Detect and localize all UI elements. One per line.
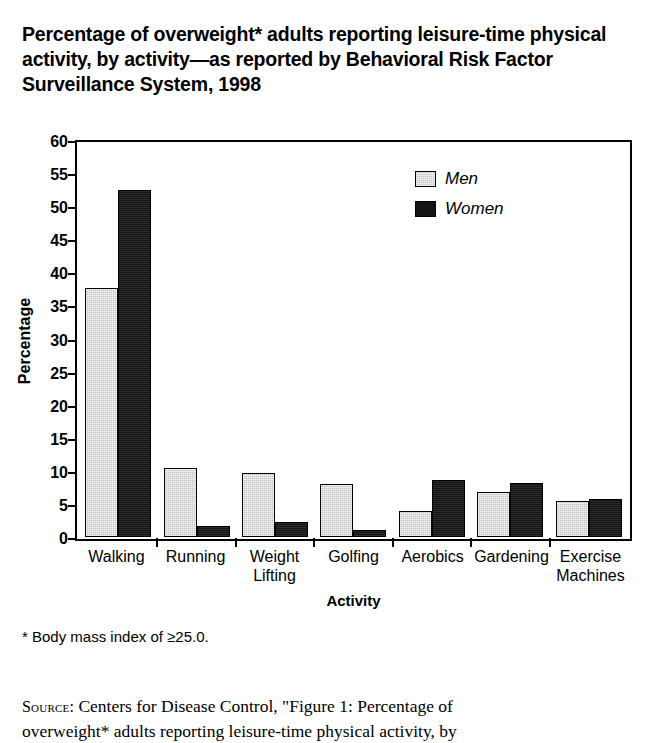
x-axis-label: Aerobics: [393, 547, 472, 585]
bar-men: [556, 501, 589, 537]
y-axis-title: Percentage: [16, 297, 34, 383]
legend-item: Men: [415, 164, 575, 194]
legend-swatch-men: [415, 171, 436, 187]
bar-men: [320, 484, 353, 537]
y-tick-label: 0: [59, 530, 68, 548]
y-tick-label: 50: [50, 199, 68, 217]
bar-men: [85, 288, 118, 537]
x-tick-mark: [392, 538, 394, 547]
source-line-1: Centers for Disease Control, "Figure 1: …: [74, 696, 453, 716]
bar-group: [236, 144, 314, 537]
bar-women: [275, 522, 308, 537]
x-axis-label: ExerciseMachines: [551, 547, 630, 585]
chart-title: Percentage of overweight* adults reporti…: [22, 22, 622, 97]
y-tick-label: 15: [50, 431, 68, 449]
y-tick-label: 5: [59, 497, 68, 515]
bar-group: [157, 144, 235, 537]
bar-men: [399, 511, 432, 537]
x-axis-title: Activity: [75, 592, 632, 609]
y-tick-label: 60: [50, 133, 68, 151]
x-axis-label: Walking: [77, 547, 156, 585]
x-tick-mark: [549, 538, 551, 547]
y-tick-mark: [68, 406, 75, 408]
bar-women: [589, 499, 622, 537]
x-axis-label: Gardening: [472, 547, 551, 585]
bar-women: [353, 530, 386, 537]
y-tick-mark: [68, 240, 75, 242]
bar-group: [79, 144, 157, 537]
y-tick-label: 55: [50, 166, 68, 184]
y-tick-mark: [68, 273, 75, 275]
y-tick-label: 20: [50, 398, 68, 416]
legend: MenWomen: [415, 164, 575, 224]
footnote: * Body mass index of ≥25.0.: [22, 628, 209, 645]
legend-label: Women: [445, 199, 504, 219]
y-tick-label: 30: [50, 332, 68, 350]
bar-women: [432, 480, 465, 537]
y-tick-mark: [68, 340, 75, 342]
legend-swatch-women: [415, 201, 436, 217]
legend-label: Men: [445, 169, 478, 189]
y-tick-mark: [68, 472, 75, 474]
y-tick-mark: [68, 439, 75, 441]
source-note: Source: Centers for Disease Control, "Fi…: [22, 694, 632, 743]
y-tick-mark: [68, 174, 75, 176]
x-tick-mark: [313, 538, 315, 547]
bar-men: [477, 492, 510, 537]
bar-women: [197, 526, 230, 537]
x-tick-mark: [470, 538, 472, 547]
y-tick-mark: [68, 141, 75, 143]
bar-men: [164, 468, 197, 537]
y-tick-mark: [68, 373, 75, 375]
x-tick-mark: [156, 538, 158, 547]
x-axis-labels: WalkingRunningWeightLiftingGolfingAerobi…: [77, 547, 630, 585]
x-tick-mark: [235, 538, 237, 547]
legend-item: Women: [415, 194, 575, 224]
x-axis-label: Running: [156, 547, 235, 585]
y-tick-label: 35: [50, 298, 68, 316]
y-axis: Percentage 051015202530354045505560: [20, 140, 68, 541]
y-tick-label: 10: [50, 464, 68, 482]
bar-women: [118, 190, 151, 537]
y-tick-label: 45: [50, 232, 68, 250]
y-tick-mark: [68, 306, 75, 308]
y-tick-mark: [68, 207, 75, 209]
x-axis-label: Golfing: [314, 547, 393, 585]
bar-women: [510, 483, 543, 537]
y-tick-label: 40: [50, 265, 68, 283]
bar-men: [242, 473, 275, 537]
y-tick-label: 25: [50, 365, 68, 383]
source-line-2: overweight* adults reporting leisure-tim…: [22, 719, 632, 743]
source-kicker: Source:: [22, 698, 74, 715]
bar-group: [314, 144, 392, 537]
y-tick-mark: [68, 538, 75, 540]
x-axis-label: WeightLifting: [235, 547, 314, 585]
y-tick-mark: [68, 505, 75, 507]
